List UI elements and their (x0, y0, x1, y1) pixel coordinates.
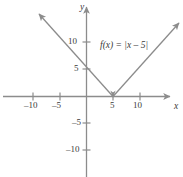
y-tick-label-5: 5 (74, 64, 79, 73)
function-right-branch (113, 23, 179, 97)
y-tick-label--5: –5 (72, 118, 81, 127)
y-axis-label: y (80, 3, 84, 13)
x-tick-label--5: –5 (52, 101, 61, 110)
function-equation-label: f(x) = |x – 5| (100, 41, 148, 51)
x-tick-label-10: 10 (133, 101, 142, 110)
function-left-branch (39, 14, 113, 97)
x-axis-label: x (174, 102, 178, 112)
y-tick-label-10: 10 (68, 37, 77, 46)
graph-canvas (0, 0, 183, 177)
x-tick-label-5: 5 (110, 101, 115, 110)
y-tick-label--10: –10 (66, 145, 80, 154)
absolute-value-function-figure: –10 –5 5 10 10 5 –5 –10 x y f(x) = |x – … (0, 0, 183, 177)
x-tick-label--10: –10 (24, 101, 38, 110)
